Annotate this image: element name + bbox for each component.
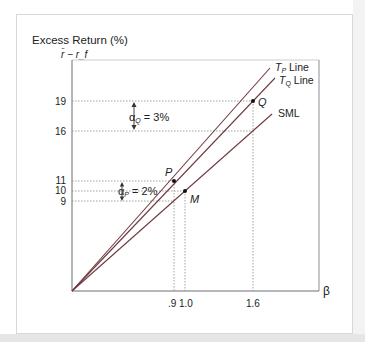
- svg-text:9: 9: [60, 196, 66, 207]
- arrow-down-icon: [132, 125, 137, 130]
- tq-line-label: TQ Line: [279, 74, 314, 88]
- alpha-p-annotation: αP = 2%: [118, 182, 158, 201]
- svg-text:16: 16: [55, 126, 67, 137]
- y-axis-subtitle: r̄ − r_f: [61, 48, 89, 60]
- arrow-up-icon: [132, 102, 137, 107]
- tp-line-label: TP Line: [275, 61, 309, 74]
- sml-line: [72, 114, 272, 291]
- point-label-q: Q: [258, 96, 267, 108]
- x-tick-labels: .9 1.0 1.6: [168, 298, 260, 309]
- svg-text:10: 10: [55, 185, 67, 196]
- x-axis-title: β: [323, 284, 330, 298]
- alpha-q-annotation: αQ = 3%: [129, 102, 169, 130]
- data-points: [172, 99, 255, 193]
- point-q: [251, 99, 255, 103]
- svg-text:.9: .9: [168, 298, 177, 309]
- point-label-m: M: [190, 193, 200, 205]
- sml-label: SML: [278, 107, 300, 119]
- svg-text:1.0: 1.0: [179, 298, 193, 309]
- tq-line: [72, 78, 275, 291]
- svg-text:19: 19: [55, 96, 67, 107]
- y-tick-labels: 19 16 11 10 9: [55, 96, 67, 207]
- svg-text:1.6: 1.6: [246, 298, 260, 309]
- tp-line: [72, 68, 270, 291]
- point-label-p: P: [165, 166, 173, 178]
- plot-frame: [72, 60, 319, 291]
- y-axis-title: Excess Return (%): [32, 34, 128, 46]
- point-m: [183, 189, 187, 193]
- point-p: [172, 179, 176, 183]
- chart-svg: Excess Return (%) r̄ − r_f P M Q TP Lin: [0, 0, 365, 342]
- svg-text:αP = 2%: αP = 2%: [118, 185, 158, 198]
- svg-text:αQ = 3%: αQ = 3%: [129, 111, 169, 125]
